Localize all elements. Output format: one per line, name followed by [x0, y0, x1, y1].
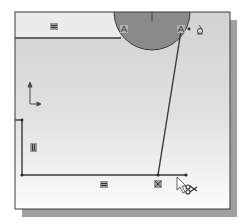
horizontal-constraint-icon[interactable] [100, 181, 108, 188]
tangent-constraint-icon[interactable] [120, 25, 128, 33]
coincident-constraint-icon[interactable] [154, 180, 162, 188]
canvas-background [15, 12, 230, 209]
endpoint[interactable] [184, 173, 187, 176]
sketch-canvas[interactable] [0, 0, 248, 224]
endpoint[interactable] [188, 28, 191, 31]
horizontal-constraint-icon[interactable] [50, 23, 58, 30]
top-region [15, 12, 120, 38]
endpoint[interactable] [156, 173, 159, 176]
endpoint[interactable] [20, 173, 23, 176]
vertical-constraint-icon[interactable] [30, 143, 37, 152]
endpoint[interactable] [21, 119, 24, 122]
tangent-constraint-icon[interactable] [177, 25, 185, 33]
